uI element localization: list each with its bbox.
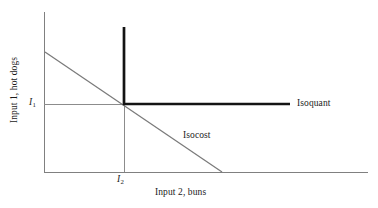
y-axis-tick-label-i1: I1 bbox=[29, 98, 36, 108]
isocost-line bbox=[45, 52, 222, 172]
y-axis-title: Input 1, hot dogs bbox=[10, 57, 20, 123]
x-tick-symbol: I bbox=[117, 174, 120, 184]
isoquant-isocost-figure: Input 1, hot dogs Input 2, buns I1 I2 Is… bbox=[0, 0, 378, 208]
isoquant-curve bbox=[124, 27, 290, 104]
x-tick-subscript: 2 bbox=[121, 178, 125, 185]
isocost-label: Isocost bbox=[183, 131, 211, 141]
x-axis-title: Input 2, buns bbox=[155, 188, 206, 198]
x-axis-tick-label-i2: I2 bbox=[117, 175, 124, 185]
y-axis-title-text: Input 1, hot dogs bbox=[10, 57, 20, 123]
isoquant-label: Isoquant bbox=[297, 99, 331, 109]
y-tick-subscript: 1 bbox=[33, 101, 37, 108]
y-tick-symbol: I bbox=[29, 97, 32, 107]
